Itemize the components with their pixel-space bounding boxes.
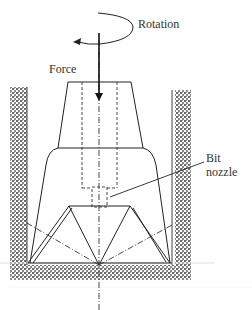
rotation-arrow-icon [73,13,133,45]
drill-bit-diagram: Rotation Force Bit nozzle [0,0,252,310]
right-wall-rock [175,90,191,280]
force-label: Force [49,62,76,76]
cone-axes [27,223,172,265]
force-arrow-icon [95,33,103,101]
rotation-label: Rotation [138,17,179,31]
bit-label: Bit [206,151,221,165]
bit-nozzle [92,187,107,207]
bottom-rock [10,265,191,280]
nozzle-label: nozzle [206,165,237,179]
left-wall-rock [10,87,27,280]
